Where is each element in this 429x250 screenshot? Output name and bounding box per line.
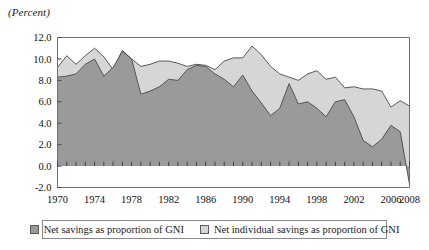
legend-item-net-savings: Net savings as proportion of GNI (30, 224, 184, 235)
y-tick-label: 8.0 (38, 75, 51, 86)
x-tick-label: 1974 (84, 194, 106, 205)
x-tick-label: 2008 (399, 194, 420, 205)
x-tick-label: 1990 (232, 194, 253, 205)
x-tick-label: 1998 (306, 194, 327, 205)
x-tick-label: 1994 (269, 194, 291, 205)
legend-swatch-net-individual-savings (200, 225, 209, 234)
y-tick-label: 10.0 (33, 54, 51, 65)
x-tick-label: 1978 (121, 194, 142, 205)
y-tick-label: 12.0 (33, 32, 51, 43)
x-tick-label: 1982 (158, 194, 179, 205)
x-tick-label: 2002 (343, 194, 364, 205)
x-tick-label: 1986 (195, 194, 216, 205)
legend-label-net-individual-savings: Net individual savings as proportion of … (214, 224, 399, 235)
y-tick-label: 2.0 (38, 139, 51, 150)
area-chart: 12.010.08.06.04.02.00.0-2.01970197419781… (0, 0, 429, 250)
x-tick-label: 1970 (47, 194, 68, 205)
chart-legend: Net savings as proportion of GNI Net ind… (42, 220, 387, 239)
legend-swatch-net-savings (30, 225, 39, 234)
legend-label-net-savings: Net savings as proportion of GNI (44, 224, 184, 235)
y-tick-label: 0.0 (38, 161, 51, 172)
y-tick-label: 6.0 (38, 96, 51, 107)
legend-item-net-individual-savings: Net individual savings as proportion of … (200, 224, 399, 235)
figure: (Percent) 12.010.08.06.04.02.00.0-2.0197… (0, 0, 429, 250)
y-tick-label: 4.0 (38, 118, 51, 129)
y-tick-label: -2.0 (35, 182, 52, 193)
